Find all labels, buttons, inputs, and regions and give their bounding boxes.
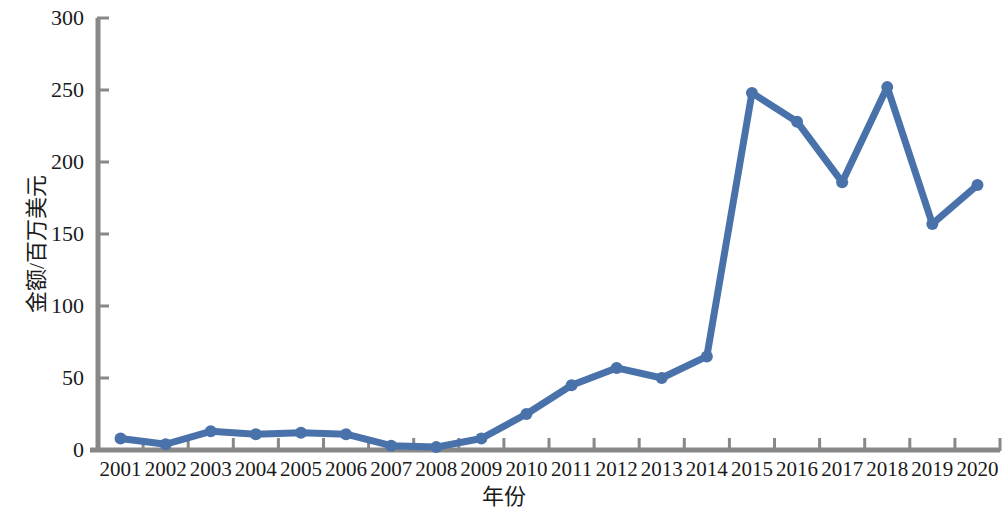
data-point-marker <box>475 432 487 444</box>
x-axis-tick-label: 2008 <box>414 459 459 480</box>
x-axis-tick-label: 2012 <box>594 459 639 480</box>
data-point-marker <box>746 87 758 99</box>
x-axis-tick-label: 2011 <box>549 459 594 480</box>
y-axis-tick-label: 250 <box>0 79 84 101</box>
x-axis-tick-label: 2009 <box>459 459 504 480</box>
x-axis-title: 年份 <box>0 478 1007 510</box>
x-axis-tick-label: 2003 <box>188 459 233 480</box>
x-axis-tick-label: 2018 <box>865 459 910 480</box>
x-axis-tick-label: 2006 <box>324 459 369 480</box>
x-axis-tick-label: 2013 <box>639 459 684 480</box>
data-point-marker <box>791 116 803 128</box>
x-axis-tick-label: 2010 <box>504 459 549 480</box>
y-axis-tick-label: 0 <box>0 439 84 461</box>
x-axis-tick-label: 2007 <box>369 459 414 480</box>
data-point-marker <box>566 379 578 391</box>
y-axis-tick-label: 50 <box>0 367 84 389</box>
x-axis-tick-label: 2004 <box>233 459 278 480</box>
data-point-marker <box>115 432 127 444</box>
x-axis-tick-label: 2017 <box>820 459 865 480</box>
data-point-marker <box>430 441 442 453</box>
x-axis-tick-label: 2015 <box>729 459 774 480</box>
data-point-marker <box>205 425 217 437</box>
data-point-marker <box>250 428 262 440</box>
x-axis-tick-label: 2016 <box>775 459 820 480</box>
data-point-marker <box>971 179 983 191</box>
data-point-marker <box>160 438 172 450</box>
data-point-marker <box>926 218 938 230</box>
data-point-marker <box>611 362 623 374</box>
data-series-line <box>121 87 978 447</box>
data-point-marker <box>520 408 532 420</box>
axes <box>90 18 1000 450</box>
x-axis-tick-label: 2019 <box>910 459 955 480</box>
y-axis-tick-label: 300 <box>0 7 84 29</box>
data-point-marker <box>656 372 668 384</box>
data-point-marker <box>295 427 307 439</box>
data-point-marker <box>340 428 352 440</box>
data-point-marker <box>836 176 848 188</box>
x-axis-tick-label: 2014 <box>684 459 729 480</box>
x-axis-tick-label: 2020 <box>955 459 1000 480</box>
data-point-marker <box>385 440 397 452</box>
x-axis-ticks <box>98 438 1000 451</box>
y-axis-title: 金额/百万美元 <box>18 134 50 354</box>
data-point-marker <box>881 81 893 93</box>
x-axis-tick-label: 2001 <box>98 459 143 480</box>
data-point-marker <box>701 350 713 362</box>
x-axis-tick-label: 2002 <box>143 459 188 480</box>
x-axis-tick-label: 2005 <box>278 459 323 480</box>
